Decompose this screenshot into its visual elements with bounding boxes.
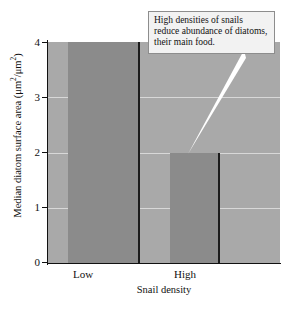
y-axis-title-part-2: /μm	[12, 60, 23, 77]
x-axis-line	[47, 263, 281, 264]
y-tick-label-0: 0	[12, 257, 40, 268]
plot-area	[48, 42, 280, 263]
callout-text: High densities of snails reduce abundanc…	[154, 15, 267, 47]
y-tick-mark-0	[42, 262, 48, 263]
y-tick-mark-1	[42, 207, 48, 208]
callout-annotation: High densities of snails reduce abundanc…	[148, 11, 275, 54]
y-axis-title-part-3: )	[12, 53, 23, 57]
bar-high	[170, 153, 220, 264]
y-axis-title-sup-2: 2	[9, 57, 18, 61]
figure-bar-chart: 4 3 2 1 0 Median diatom surface area (μm…	[0, 0, 283, 309]
x-axis-title: Snail density	[48, 284, 280, 296]
y-tick-mark-3	[42, 97, 48, 98]
y-axis-title-sup-1: 2	[9, 77, 18, 81]
y-tick-mark-2	[42, 152, 48, 153]
x-category-label-high: High	[150, 268, 220, 280]
bar-low	[68, 42, 140, 263]
y-tick-mark-4	[42, 42, 48, 43]
y-axis-title-part-1: Median diatom surface area (μm	[12, 81, 23, 218]
y-axis-title: Median diatom surface area (μm2/μm2)	[12, 36, 23, 236]
x-category-label-low: Low	[48, 268, 118, 280]
